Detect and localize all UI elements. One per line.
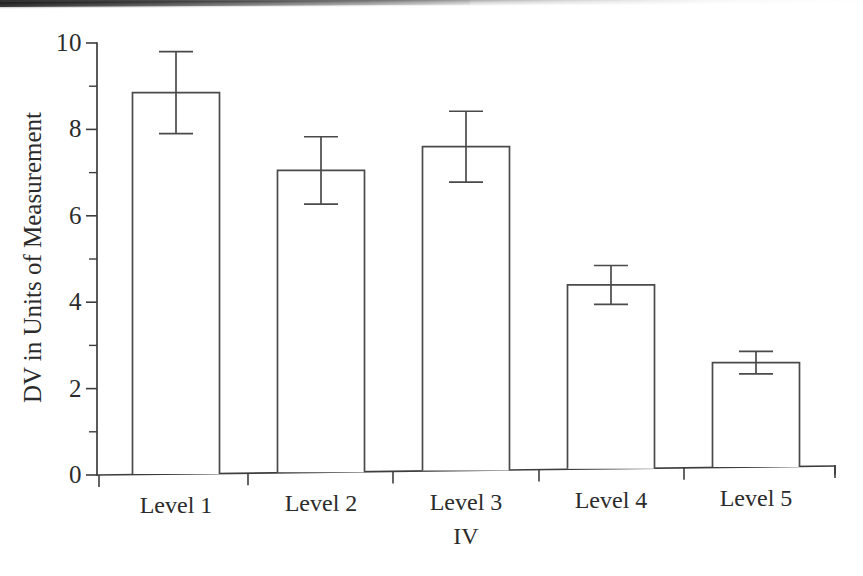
y-axis-title: DV in Units of Measurement <box>20 48 45 468</box>
bar-4 <box>568 285 655 469</box>
bar-3 <box>423 147 510 471</box>
x-axis-title: IV <box>366 524 566 548</box>
bar-1 <box>133 93 220 474</box>
bar-chart-figure: 0246810 Level 1Level 2Level 3Level 4Leve… <box>0 0 863 576</box>
x-axis-tick-label-5: Level 5 <box>666 486 846 510</box>
bar-5 <box>713 363 800 467</box>
bar-2 <box>278 170 365 472</box>
